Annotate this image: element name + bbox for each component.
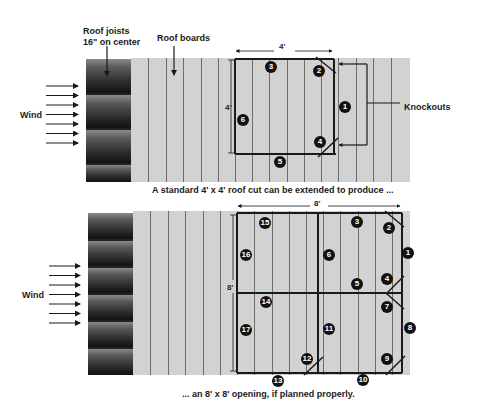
height-dimension-arrow-bottom [230, 215, 236, 371]
cut-number-16-bottom: 16 [240, 249, 252, 261]
cut-number-9-bottom: 9 [381, 353, 393, 365]
cut-number-3-bottom: 3 [351, 216, 363, 228]
cut-number-8-bottom: 8 [404, 322, 416, 334]
cut-number-5: 5 [274, 156, 286, 168]
cut-number-6: 6 [237, 114, 249, 126]
cut-number-6-bottom: 6 [323, 249, 335, 261]
wind-arrows-icon [46, 86, 78, 143]
cut-number-12-bottom: 12 [301, 353, 313, 365]
cut-number-2: 2 [313, 65, 325, 77]
cut-number-4-bottom: 4 [381, 273, 393, 285]
roof-cut-outline-8x8 [237, 211, 405, 375]
cut-number-1-bottom: 1 [402, 247, 414, 259]
cut-number-10-bottom: 10 [357, 374, 369, 386]
cut-number-4: 4 [314, 136, 326, 148]
cut-number-17-bottom: 17 [240, 324, 252, 336]
cut-number-15-bottom: 15 [259, 217, 271, 229]
cut-number-7-bottom: 7 [381, 301, 393, 313]
cut-number-3: 3 [265, 61, 277, 73]
cut-number-5-bottom: 5 [351, 278, 363, 290]
cut-number-11-bottom: 11 [323, 323, 335, 335]
cut-number-14-bottom: 14 [260, 296, 272, 308]
cut-number-2-bottom: 2 [383, 222, 395, 234]
diagram-line-art [0, 0, 492, 416]
cut-number-13-bottom: 13 [272, 375, 284, 387]
height-dimension-arrow [228, 60, 234, 153]
cut-number-1: 1 [339, 101, 351, 113]
wind-arrows-icon-bottom [49, 266, 80, 323]
